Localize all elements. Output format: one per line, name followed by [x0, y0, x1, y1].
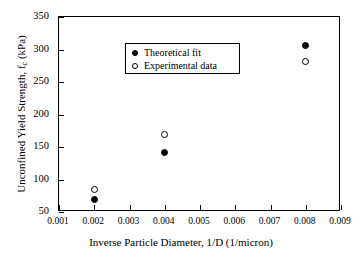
- x-axis-tick: [235, 205, 236, 210]
- y-axis-tick-label: 250: [0, 76, 49, 87]
- x-axis-tick: [341, 205, 342, 210]
- x-axis-tick: [165, 205, 166, 210]
- legend-item: Experimental data: [131, 59, 235, 72]
- plot-area: Theoretical fitExperimental data: [58, 16, 340, 211]
- y-axis-tick: [59, 50, 64, 51]
- x-axis-tick: [306, 205, 307, 210]
- chart-figure: Unconfined Yield Strength, fc (kPa) Inve…: [0, 0, 362, 259]
- y-axis-tick: [59, 212, 64, 213]
- chart-legend: Theoretical fitExperimental data: [125, 43, 240, 74]
- y-axis-tick-label: 100: [0, 174, 49, 185]
- data-point: [161, 131, 168, 138]
- data-point: [302, 58, 309, 65]
- legend-label: Experimental data: [141, 60, 217, 72]
- x-axis-tick: [94, 205, 95, 210]
- x-axis-title: Inverse Particle Diameter, 1/D (1/micron…: [0, 236, 362, 248]
- y-axis-tick-label: 300: [0, 44, 49, 55]
- x-axis-tick: [200, 205, 201, 210]
- y-axis-tick: [59, 180, 64, 181]
- y-axis-tick: [59, 115, 64, 116]
- y-axis-tick-label: 150: [0, 141, 49, 152]
- x-axis-tick-label: 0.009: [317, 217, 362, 227]
- y-axis-tick: [59, 147, 64, 148]
- data-point: [302, 42, 309, 49]
- x-axis-tick: [59, 205, 60, 210]
- x-axis-tick: [130, 205, 131, 210]
- open-circle-icon: [131, 59, 141, 72]
- legend-label: Theoretical fit: [141, 47, 201, 59]
- y-axis-tick-label: 200: [0, 109, 49, 120]
- y-axis-tick: [59, 82, 64, 83]
- y-axis-title-subscript: c: [20, 62, 29, 66]
- legend-item: Theoretical fit: [131, 46, 235, 59]
- data-point: [91, 186, 98, 193]
- data-point: [161, 149, 168, 156]
- x-axis-tick: [271, 205, 272, 210]
- y-axis-tick-label: 50: [0, 206, 49, 217]
- y-axis-tick-label: 350: [0, 11, 49, 22]
- y-axis-tick: [59, 17, 64, 18]
- data-point: [91, 196, 98, 203]
- filled-circle-icon: [131, 46, 141, 59]
